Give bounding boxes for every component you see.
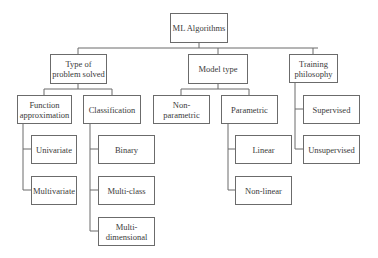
node-model-type: Model type	[188, 54, 248, 84]
node-function-approximation: Function approximation	[17, 95, 72, 124]
node-binary: Binary	[98, 135, 155, 164]
node-multi-class: Multi-class	[98, 176, 155, 205]
node-multi-dimensional: Multi-dimensional	[98, 217, 155, 246]
node-classification: Classification	[83, 95, 141, 124]
node-non-parametric: Non-parametric	[153, 95, 210, 124]
node-univariate: Univariate	[31, 135, 77, 164]
node-ml-algorithms: ML Algorithms	[170, 13, 228, 43]
node-training-philosophy: Training philosophy	[289, 54, 338, 83]
node-non-linear: Non-linear	[235, 176, 292, 205]
node-multivariate: Multivariate	[31, 176, 77, 205]
node-unsupervised: Unsupervised	[303, 135, 360, 164]
node-parametric: Parametric	[221, 95, 278, 124]
node-type-of-problem-solved: Type of problem solved	[50, 54, 107, 84]
node-supervised: Supervised	[303, 95, 360, 124]
node-linear: Linear	[235, 135, 292, 164]
